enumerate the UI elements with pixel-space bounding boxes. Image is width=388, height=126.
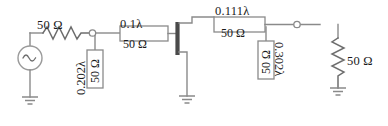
node-junction-1 (89, 30, 95, 36)
series-resistor-label: 50 Ω (37, 19, 63, 32)
tline1-impedance-label: 50 Ω (123, 38, 147, 50)
tline2-impedance-label: 50 Ω (221, 27, 245, 39)
ground-source (22, 97, 38, 104)
stub1-length-label: 0.202λ (74, 61, 89, 95)
source-circle (18, 46, 42, 70)
stub1-impedance-text: 50 Ω (88, 59, 103, 83)
load-resistor-symbol (332, 38, 344, 88)
ground-load (330, 88, 346, 95)
node-junction-2 (294, 21, 300, 27)
stub2-length-label: 0.302λ (271, 42, 286, 76)
wire-bar-to-tline2 (179, 17, 214, 23)
circuit-diagram: 50 Ω 0.1λ 50 Ω 0.111λ 50 Ω 50 Ω 0.202λ 5… (0, 0, 388, 126)
load-resistor-label: 50 Ω (347, 55, 373, 68)
stub1-impedance-label: 50 Ω (88, 54, 102, 88)
ground-center (179, 96, 195, 103)
tline1-length-label: 0.1λ (120, 18, 143, 31)
tline2-length-label: 0.111λ (215, 5, 249, 18)
wire-bar-to-ground (179, 52, 187, 96)
